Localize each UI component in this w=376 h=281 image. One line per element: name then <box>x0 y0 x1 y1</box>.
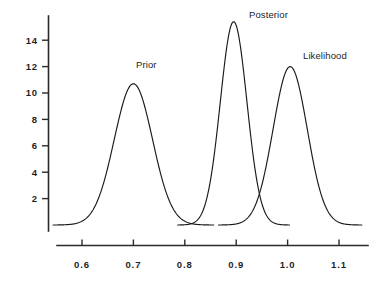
y-tick-label-10: 10 <box>26 87 38 98</box>
y-tick-label-8: 8 <box>32 114 38 125</box>
chart-canvas: 2468101214 0.60.70.80.91.01.1 PriorPoste… <box>0 0 376 281</box>
y-tick-label-6: 6 <box>32 140 38 151</box>
y-axis-ticks <box>42 40 49 198</box>
curve-prior <box>53 84 214 225</box>
curve-annotations: PriorPosteriorLikelihood <box>136 9 347 70</box>
x-tick-label-1.1: 1.1 <box>331 259 347 270</box>
x-tick-label-0.6: 0.6 <box>74 259 90 270</box>
annotation-likelihood: Likelihood <box>303 50 347 61</box>
x-tick-label-1.0: 1.0 <box>280 259 296 270</box>
y-tick-label-2: 2 <box>32 193 38 204</box>
y-tick-label-4: 4 <box>32 167 38 178</box>
y-tick-label-12: 12 <box>26 61 38 72</box>
x-tick-label-0.8: 0.8 <box>177 259 193 270</box>
x-tick-label-0.7: 0.7 <box>125 259 141 270</box>
x-tick-label-0.9: 0.9 <box>228 259 244 270</box>
curve-posterior <box>178 22 290 225</box>
annotation-posterior: Posterior <box>249 9 288 20</box>
annotation-prior: Prior <box>136 59 157 70</box>
x-axis-ticks <box>82 240 339 246</box>
x-axis-tick-labels: 0.60.70.80.91.01.1 <box>74 259 347 270</box>
y-tick-label-14: 14 <box>26 35 38 46</box>
bayesian-distributions-figure: 2468101214 0.60.70.80.91.01.1 PriorPoste… <box>0 0 376 281</box>
curve-likelihood <box>219 67 362 225</box>
y-axis-tick-labels: 2468101214 <box>26 35 38 204</box>
